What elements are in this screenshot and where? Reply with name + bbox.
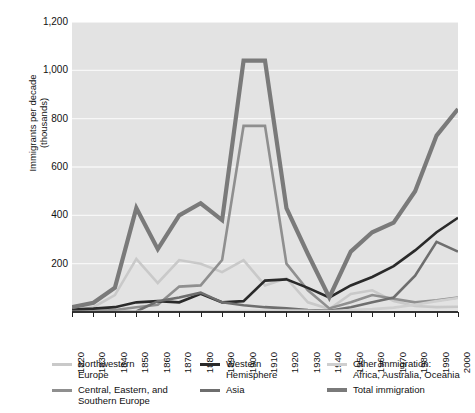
immigration-line-chart: Immigrants per decade (thousands) 1,2001… bbox=[0, 0, 475, 413]
x-tick-mark bbox=[244, 312, 245, 317]
x-tick-label: 2000 bbox=[462, 352, 472, 373]
x-tick-mark bbox=[158, 312, 159, 317]
x-tick-mark bbox=[372, 312, 373, 317]
y-tick-label: 200 bbox=[28, 259, 68, 269]
legend-item[interactable]: Central, Eastern, and Southern Europe bbox=[52, 384, 168, 406]
y-tick-label: 800 bbox=[28, 114, 68, 124]
legend-color-swatch bbox=[200, 389, 220, 392]
legend-label: Other immigration: Africa, Australia, Oc… bbox=[353, 358, 460, 380]
plot-area bbox=[72, 22, 458, 312]
y-tick-label: 600 bbox=[28, 162, 68, 172]
x-tick-mark bbox=[329, 312, 330, 317]
legend-color-swatch bbox=[52, 363, 72, 366]
legend-color-swatch bbox=[327, 388, 347, 392]
legend-color-swatch bbox=[327, 363, 347, 366]
legend-color-swatch bbox=[52, 389, 72, 392]
legend-label: Asia bbox=[226, 384, 244, 395]
x-tick-mark bbox=[93, 312, 94, 317]
series-line bbox=[72, 259, 458, 310]
x-tick-mark bbox=[115, 312, 116, 317]
y-axis-tick-labels: 1,2001,000800600400200 bbox=[24, 0, 68, 330]
x-tick-mark bbox=[136, 312, 137, 317]
x-tick-mark bbox=[437, 312, 438, 317]
chart-legend: Northwestern EuropeCentral, Eastern, and… bbox=[52, 358, 462, 410]
legend-label: Northwestern Europe bbox=[78, 358, 135, 380]
x-tick-mark bbox=[72, 312, 73, 317]
legend-label: Western Hemisphere bbox=[226, 358, 277, 380]
x-tick-mark bbox=[351, 312, 352, 317]
legend-label: Total immigration bbox=[353, 384, 425, 395]
x-tick-mark bbox=[286, 312, 287, 317]
y-tick-label: 1,000 bbox=[28, 65, 68, 75]
x-axis-tick-labels: 1820183018401850186018701880189019001910… bbox=[72, 312, 458, 358]
x-tick-mark bbox=[308, 312, 309, 317]
series-lines bbox=[72, 22, 458, 312]
legend-color-swatch bbox=[200, 363, 220, 366]
x-tick-mark bbox=[458, 312, 459, 317]
y-tick-label: 400 bbox=[28, 210, 68, 220]
legend-item[interactable]: Western Hemisphere bbox=[200, 358, 277, 380]
legend-item[interactable]: Total immigration bbox=[327, 384, 425, 395]
x-tick-mark bbox=[394, 312, 395, 317]
x-tick-mark bbox=[222, 312, 223, 317]
y-tick-label: 1,200 bbox=[28, 17, 68, 27]
legend-item[interactable]: Asia bbox=[200, 384, 244, 395]
x-tick-mark bbox=[179, 312, 180, 317]
x-tick-mark bbox=[415, 312, 416, 317]
x-tick-mark bbox=[265, 312, 266, 317]
legend-item[interactable]: Other immigration: Africa, Australia, Oc… bbox=[327, 358, 460, 380]
legend-label: Central, Eastern, and Southern Europe bbox=[78, 384, 168, 406]
legend-item[interactable]: Northwestern Europe bbox=[52, 358, 135, 380]
x-tick-mark bbox=[201, 312, 202, 317]
